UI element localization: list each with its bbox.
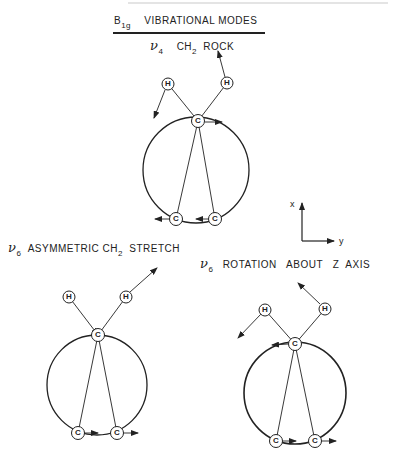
- atom-c: C: [273, 436, 279, 445]
- atom-c: C: [75, 428, 81, 437]
- atom-h: H: [165, 79, 171, 88]
- atom-c: C: [195, 116, 201, 125]
- atom-c: C: [173, 214, 179, 223]
- atom-c: C: [292, 339, 298, 348]
- atom-h: H: [322, 304, 328, 313]
- atom-h: H: [262, 305, 268, 314]
- atom-c: C: [212, 214, 218, 223]
- atom-c: C: [95, 330, 101, 339]
- atom-c: C: [114, 428, 120, 437]
- atom-c: C: [312, 436, 318, 445]
- atom-labels: H H C C C H H C C C H H C C C: [0, 0, 393, 456]
- atom-h: H: [123, 292, 129, 301]
- atom-h: H: [224, 78, 230, 87]
- atom-h: H: [66, 292, 72, 301]
